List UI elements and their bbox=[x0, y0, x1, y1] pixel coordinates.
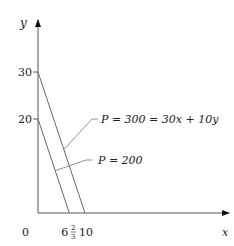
leader-p200 bbox=[55, 160, 92, 171]
y-axis-label: y bbox=[19, 16, 27, 30]
isoprofit-line-p300 bbox=[38, 72, 85, 213]
y-tick-label-20: 20 bbox=[18, 113, 32, 126]
label-p300: P = 300 = 30x + 10y bbox=[100, 113, 219, 126]
isoprofit-line-p200 bbox=[38, 119, 69, 213]
isoprofit-diagram: y x 0 30 20 6 2 3 10 P = 300 = 30x + 10y… bbox=[0, 0, 234, 246]
fraction-numerator: 2 bbox=[71, 224, 75, 232]
x-tick-label-10: 10 bbox=[79, 226, 93, 239]
fraction-denominator: 3 bbox=[71, 233, 75, 241]
fraction-whole: 6 bbox=[61, 226, 68, 239]
origin-label: 0 bbox=[22, 226, 29, 239]
x-axis-label: x bbox=[222, 226, 229, 239]
label-p200: P = 200 bbox=[97, 154, 143, 167]
leader-p300 bbox=[64, 119, 98, 150]
y-tick-label-30: 30 bbox=[18, 66, 32, 79]
x-tick-label-6-2-3: 6 2 3 bbox=[61, 224, 76, 241]
